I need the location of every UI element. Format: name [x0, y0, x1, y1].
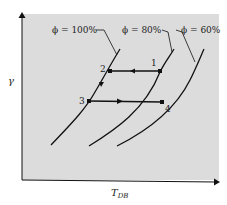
label-phi-60: ϕ = 60% — [181, 25, 221, 35]
y-axis-arrow-icon — [19, 12, 26, 18]
leader-phi-100 — [96, 30, 117, 55]
label-point-3: 3 — [79, 96, 85, 106]
process-3-4 — [89, 101, 162, 102]
label-phi-100: ϕ = 100% — [52, 25, 98, 35]
curve-phi-100 — [51, 49, 120, 145]
label-point-2: 2 — [100, 64, 106, 74]
label-phi-80: ϕ = 80% — [122, 25, 162, 35]
point-3 — [87, 99, 91, 103]
x-axis-arrow-icon — [214, 179, 220, 186]
label-point-1: 1 — [151, 58, 157, 68]
arrow-1-2-icon — [130, 69, 135, 74]
point-4 — [160, 100, 164, 104]
y-axis-label: γ — [8, 75, 14, 86]
x-axis — [22, 180, 216, 182]
label-point-4: 4 — [165, 104, 171, 114]
x-axis-label: TDB — [111, 187, 128, 200]
x-axis-label-sub: DB — [117, 192, 129, 200]
point-1 — [158, 69, 162, 73]
psychrometric-diagram: ϕ = 100% ϕ = 80% ϕ = 60% 1 2 3 4 γ TDB — [0, 0, 227, 205]
point-2 — [108, 69, 112, 73]
leader-phi-80 — [162, 30, 172, 52]
curve-phi-60 — [117, 49, 204, 146]
arrow-3-4-icon — [117, 99, 123, 105]
